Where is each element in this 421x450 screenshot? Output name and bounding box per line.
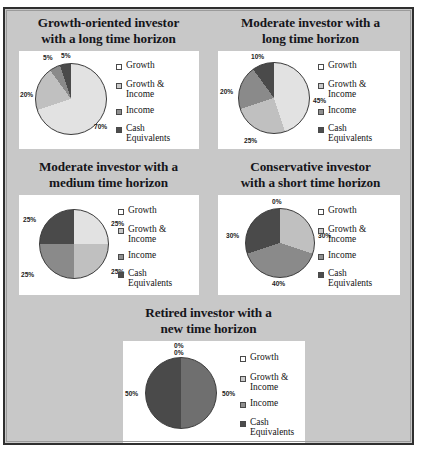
legend-swatch-cash-icon [240, 421, 246, 427]
legend-swatch-income-icon [118, 254, 124, 260]
legend-item-income[interactable]: Income [240, 399, 278, 409]
title-line-2: new time horizon [111, 321, 306, 337]
pie-slice-label-growth-income: 0% [174, 349, 184, 356]
chart-cell-moderate-medium: Moderate investor with a medium time hor… [11, 159, 206, 299]
chart-cell-conservative-short: Conservative investor with a short time … [213, 159, 408, 299]
chart-panel: 70% 20% 5% 5% Growth Growth & Income Inc… [19, 51, 199, 149]
legend-item-growth-income[interactable]: Growth & Income [118, 225, 166, 244]
legend-item-cash[interactable]: Cash Equivalents [318, 269, 372, 288]
legend-item-cash[interactable]: Cash Equivalents [318, 124, 372, 143]
legend-item-growth[interactable]: Growth [116, 61, 155, 71]
legend-swatch-income-icon [318, 109, 324, 115]
title-line-1: Conservative investor [213, 159, 408, 175]
figure-frame: Growth-oriented investor with a long tim… [3, 7, 414, 445]
legend-item-growth[interactable]: Growth [318, 206, 357, 216]
legend-item-income[interactable]: Income [118, 251, 156, 261]
legend-label-growth-income: Growth & Income [250, 373, 288, 392]
legend-swatch-cash-icon [118, 272, 124, 278]
chart-panel: 0% 30% 40% 30% Growth Growth & Income In… [218, 195, 400, 295]
legend-item-growth-income[interactable]: Growth & Income [116, 80, 164, 99]
legend: Growth Growth & Income Income Cash Equiv… [240, 353, 320, 437]
legend-label-cash: Cash Equivalents [128, 269, 172, 288]
legend-swatch-cash-icon [318, 272, 324, 278]
chart-title-moderate-medium: Moderate investor with a medium time hor… [11, 159, 206, 190]
legend-swatch-growth-icon [318, 209, 324, 215]
title-line-2: with a short time horizon [213, 175, 408, 191]
pie-slice-label-growth: 0% [272, 198, 282, 205]
pie-slice-label-income: 40% [272, 280, 285, 287]
title-line-2: medium time horizon [11, 175, 206, 191]
legend-item-growth[interactable]: Growth [118, 206, 157, 216]
legend-item-growth-income[interactable]: Growth & Income [240, 373, 288, 392]
title-line-1: Growth-oriented investor [11, 15, 206, 31]
legend-label-growth: Growth [250, 353, 279, 363]
chart-cell-moderate-long: Moderate investor with a long time horiz… [213, 15, 408, 153]
pie-chart-moderate-medium [39, 209, 109, 279]
pie-slice-label-cash: 25% [23, 216, 36, 223]
chart-title-growth-oriented-long: Growth-oriented investor with a long tim… [11, 15, 206, 46]
legend-label-income: Income [250, 399, 278, 409]
legend-label-growth-income: Growth & Income [126, 80, 164, 99]
legend-label-income: Income [328, 251, 356, 261]
legend-label-income: Income [328, 106, 356, 116]
pie-slice-label-cash: 30% [226, 232, 239, 239]
chart-cell-retired-new: Retired investor with a new time horizon… [111, 305, 306, 445]
pie-chart-conservative-short [245, 208, 315, 278]
legend-swatch-growth-income-icon [118, 228, 124, 234]
pie-slice-label-income: 50% [222, 390, 235, 397]
pie-slice-label-income: 5% [43, 54, 53, 61]
title-line-1: Moderate investor with a [213, 15, 408, 31]
legend-label-growth: Growth [328, 61, 357, 71]
pie-slice-label-growth: 0% [174, 342, 184, 349]
legend-label-growth-income: Growth & Income [328, 80, 366, 99]
legend-item-growth[interactable]: Growth [240, 353, 279, 363]
legend-item-growth-income[interactable]: Growth & Income [318, 80, 366, 99]
chart-title-retired-new: Retired investor with a new time horizon [111, 305, 306, 336]
legend-item-income[interactable]: Income [318, 106, 356, 116]
legend-label-cash: Cash Equivalents [328, 269, 372, 288]
pie-chart-retired-new [145, 357, 217, 429]
pie-slice-label-income: 25% [21, 271, 34, 278]
legend-swatch-growth-icon [240, 356, 246, 362]
pie-slice-label-growth-income: 25% [244, 137, 257, 144]
pie-slice-label-cash: 10% [251, 53, 264, 60]
legend-swatch-growth-income-icon [116, 83, 122, 89]
pie-circle [245, 208, 315, 278]
chart-title-moderate-long: Moderate investor with a long time horiz… [213, 15, 408, 46]
pie-chart-moderate-long [238, 62, 310, 134]
pie-slice-label-income: 20% [220, 88, 233, 95]
legend-item-cash[interactable]: Cash Equivalents [240, 418, 294, 437]
legend-item-cash[interactable]: Cash Equivalents [118, 269, 172, 288]
legend-swatch-growth-icon [318, 64, 324, 70]
legend: Growth Growth & Income Income Cash Equiv… [118, 206, 198, 288]
legend-label-growth: Growth [328, 206, 357, 216]
legend-item-income[interactable]: Income [318, 251, 356, 261]
legend-swatch-income-icon [240, 402, 246, 408]
legend-item-growth[interactable]: Growth [318, 61, 357, 71]
legend-item-income[interactable]: Income [116, 106, 154, 116]
legend-label-growth-income: Growth & Income [328, 225, 366, 244]
pie-slice-label-cash: 50% [125, 390, 138, 397]
legend-label-income: Income [128, 251, 156, 261]
chart-cell-growth-oriented-long: Growth-oriented investor with a long tim… [11, 15, 206, 153]
pie-slice-label-cash: 5% [61, 52, 71, 59]
legend-swatch-growth-icon [116, 64, 122, 70]
legend: Growth Growth & Income Income Cash Equiv… [318, 61, 398, 143]
chart-panel: 25% 25% 25% 25% Growth Growth & Income I… [19, 195, 199, 295]
chart-title-conservative-short: Conservative investor with a short time … [213, 159, 408, 190]
legend-label-cash: Cash Equivalents [328, 124, 372, 143]
legend-item-cash[interactable]: Cash Equivalents [116, 124, 170, 143]
legend-swatch-cash-icon [116, 127, 122, 133]
title-line-2: long time horizon [213, 31, 408, 47]
legend-item-growth-income[interactable]: Growth & Income [318, 225, 366, 244]
cut-off-text-sliver [0, 0, 421, 7]
pie-circle [238, 62, 310, 134]
legend-swatch-income-icon [116, 109, 122, 115]
legend: Growth Growth & Income Income Cash Equiv… [318, 206, 398, 288]
chart-panel: 45% 25% 20% 10% Growth Growth & Income I… [218, 51, 400, 149]
title-line-2: with a long time horizon [11, 31, 206, 47]
pie-slice-label-growth-income: 20% [20, 91, 33, 98]
legend-label-growth-income: Growth & Income [128, 225, 166, 244]
legend-swatch-income-icon [318, 254, 324, 260]
title-line-1: Moderate investor with a [11, 159, 206, 175]
